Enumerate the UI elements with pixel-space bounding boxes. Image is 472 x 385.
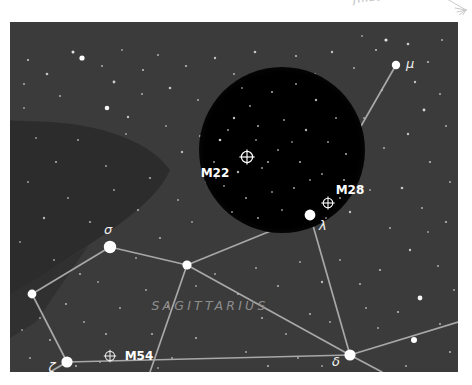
constellation-name-label: SAGITTARIUS	[151, 298, 268, 313]
star-label-zeta: ζ	[47, 360, 56, 372]
page-background: finds the Teapot	[0, 0, 472, 385]
dso-label-m54: M54	[125, 349, 154, 363]
dso-label-m22: M22	[201, 166, 230, 180]
star-delta[interactable]	[344, 349, 355, 360]
star-node-west[interactable]	[28, 290, 37, 299]
star-mu[interactable]	[392, 61, 400, 69]
star-chart-panel: M22 M28 M54	[10, 22, 458, 372]
star-sigma[interactable]	[104, 241, 116, 253]
star-lambda[interactable]	[305, 210, 316, 221]
handwritten-annotation: finds the Teapot	[352, 0, 472, 15]
star-chart-canvas: M22 M28 M54	[10, 22, 458, 372]
star-label-lambda: λ	[318, 218, 327, 233]
star-label-sigma: σ	[104, 222, 113, 237]
arrow-fan-icon	[446, 0, 470, 15]
dso-label-m28: M28	[336, 183, 365, 197]
field-of-view-circle	[199, 67, 365, 233]
star-zeta[interactable]	[61, 356, 72, 367]
star-label-mu: μ	[405, 56, 414, 71]
star-node-center[interactable]	[182, 260, 191, 269]
star-label-delta: δ	[332, 354, 340, 369]
handwritten-annotation-text: finds the Teapot	[352, 0, 451, 6]
